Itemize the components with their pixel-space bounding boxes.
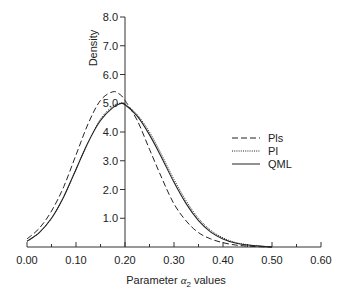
series-pi-curve xyxy=(27,103,272,247)
x-tick-label: 0.50 xyxy=(261,254,282,266)
y-tick-label: 1.0 xyxy=(103,212,118,224)
y-tick-label: 2.0 xyxy=(103,184,118,196)
x-tick-label: 0.30 xyxy=(163,254,184,266)
x-tick-label: 0.40 xyxy=(212,254,233,266)
legend-label: Pls xyxy=(268,132,284,144)
series-pls-curve xyxy=(27,92,272,247)
plot-area xyxy=(27,92,272,247)
x-tick-label: 0.00 xyxy=(16,254,37,266)
y-axis-title: Density xyxy=(87,29,99,66)
x-axis-title-suffix: values xyxy=(191,274,226,286)
y-axis: 1.02.03.04.05.06.07.08.0 xyxy=(103,11,125,247)
x-axis-title-prefix: Parameter xyxy=(126,274,180,286)
legend-label: PI xyxy=(268,145,278,157)
legend-item-pls: Pls xyxy=(232,132,284,144)
legend-item-pi: PI xyxy=(232,145,278,157)
y-tick-label: 4.0 xyxy=(103,126,118,138)
y-tick-label: 6.0 xyxy=(103,69,118,81)
legend-label: QML xyxy=(268,158,292,170)
y-tick-label: 8.0 xyxy=(103,11,118,23)
legend: PlsPIQML xyxy=(232,132,292,170)
y-tick-label: 5.0 xyxy=(103,97,118,109)
y-tick-label: 7.0 xyxy=(103,40,118,52)
x-axis: 0.000.100.200.300.400.500.60 xyxy=(16,242,331,266)
series-qml-curve xyxy=(27,103,272,247)
x-axis-title: Parameter α2 values xyxy=(126,274,226,289)
x-tick-label: 0.20 xyxy=(114,254,135,266)
x-tick-label: 0.10 xyxy=(65,254,86,266)
x-tick-label: 0.60 xyxy=(310,254,331,266)
density-chart: 0.000.100.200.300.400.500.60 1.02.03.04.… xyxy=(0,0,346,292)
legend-item-qml: QML xyxy=(232,158,292,170)
y-tick-label: 3.0 xyxy=(103,155,118,167)
